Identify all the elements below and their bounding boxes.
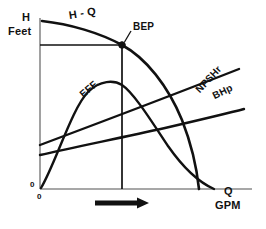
- y-axis-unit-label: Feet: [8, 26, 31, 37]
- bep-label: BEP: [133, 22, 154, 32]
- x-axis-unit-label: GPM: [215, 200, 241, 211]
- bhp-curve: [40, 109, 244, 155]
- flow-direction-arrow-icon: [95, 198, 149, 209]
- x-axis-origin-label: 0: [37, 193, 42, 201]
- y-axis-symbol-label: H: [22, 12, 30, 23]
- pump-performance-curve-figure: H Feet 0 0 Q GPM H - Q BEP EFF. NPSHr BH…: [0, 0, 266, 229]
- x-axis-symbol-label: Q: [224, 186, 233, 197]
- bep-marker-dot: [119, 42, 126, 49]
- y-axis-origin-label: 0: [30, 181, 35, 189]
- bep-leader-line: [125, 31, 132, 42]
